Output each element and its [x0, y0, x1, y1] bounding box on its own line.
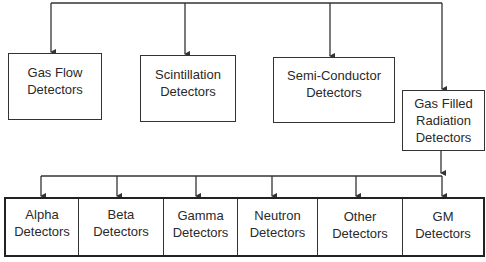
neutron-detectors-label: Neutron Detectors	[250, 207, 306, 241]
gas-filled-subtypes-row: Alpha Detectors Beta Detectors Gamma Det…	[4, 197, 485, 257]
gas-filled-radiation-detectors-box: Gas Filled Radiation Detectors	[402, 90, 485, 151]
beta-detectors-cell: Beta Detectors	[79, 199, 164, 255]
semi-conductor-detectors-label: Semi-Conductor Detectors	[287, 67, 381, 101]
other-detectors-cell: Other Detectors	[318, 199, 403, 255]
gm-detectors-cell: GM Detectors	[403, 199, 483, 255]
gas-filled-radiation-detectors-label: Gas Filled Radiation Detectors	[414, 95, 473, 146]
gm-detectors-label: GM Detectors	[415, 208, 471, 242]
alpha-detectors-cell: Alpha Detectors	[6, 199, 79, 255]
gas-flow-detectors-label: Gas Flow Detectors	[27, 64, 83, 98]
alpha-detectors-label: Alpha Detectors	[14, 206, 70, 240]
gas-flow-detectors-box: Gas Flow Detectors	[8, 53, 102, 120]
gamma-detectors-cell: Gamma Detectors	[164, 199, 238, 255]
other-detectors-label: Other Detectors	[332, 208, 388, 242]
beta-detectors-label: Beta Detectors	[93, 206, 149, 240]
neutron-detectors-cell: Neutron Detectors	[238, 199, 318, 255]
scintillation-detectors-label: Scintillation Detectors	[155, 66, 221, 100]
gamma-detectors-label: Gamma Detectors	[173, 207, 229, 241]
scintillation-detectors-box: Scintillation Detectors	[140, 55, 236, 122]
semi-conductor-detectors-box: Semi-Conductor Detectors	[273, 57, 395, 123]
